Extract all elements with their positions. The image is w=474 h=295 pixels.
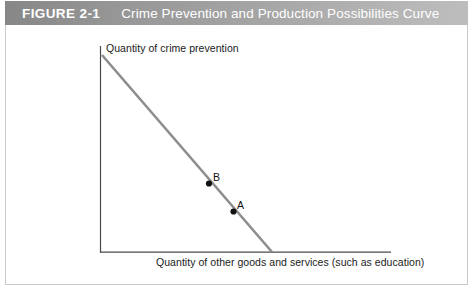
figure-header-bar: FIGURE 2-1 Crime Prevention and Producti… <box>5 1 468 25</box>
y-axis-label: Quantity of crime prevention <box>106 42 239 54</box>
page-footer-artifact <box>0 288 474 295</box>
figure-body-box <box>5 25 468 285</box>
figure-number: FIGURE 2-1 <box>22 6 100 21</box>
figure-title: Crime Prevention and Production Possibil… <box>121 6 439 21</box>
data-point-b-label: B <box>213 171 220 183</box>
data-point-a-label: A <box>237 199 244 211</box>
figure-root: FIGURE 2-1 Crime Prevention and Producti… <box>0 0 474 295</box>
x-axis-label: Quantity of other goods and services (su… <box>156 256 424 268</box>
